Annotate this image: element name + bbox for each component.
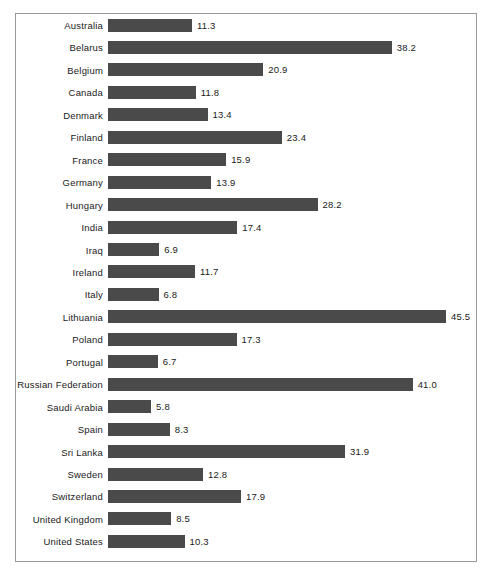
chart-frame: Australia11.3Belarus38.2Belgium20.9Canad… [15, 13, 477, 562]
bar-track: 31.9 [108, 445, 476, 458]
bar-row: Sweden12.8 [16, 464, 476, 486]
bar-row: Germany13.9 [16, 172, 476, 194]
bar-track: 5.8 [108, 400, 476, 413]
bar-value-label: 45.5 [451, 311, 470, 322]
bar-row: United States10.3 [16, 531, 476, 553]
bar-row: Italy6.8 [16, 284, 476, 306]
bar-row: Russian Federation41.0 [16, 374, 476, 396]
bar-row: United Kingdom8.5 [16, 508, 476, 530]
bar-row: France15.9 [16, 149, 476, 171]
category-label: Belarus [16, 42, 103, 53]
bar-row: Poland17.3 [16, 329, 476, 351]
bar [108, 468, 203, 481]
bar-value-label: 17.4 [242, 222, 261, 233]
bar-row: Iraq6.9 [16, 239, 476, 261]
bar-track: 12.8 [108, 468, 476, 481]
bar-value-label: 38.2 [397, 42, 416, 53]
bar-value-label: 6.7 [163, 356, 177, 367]
bar-value-label: 23.4 [287, 132, 306, 143]
bar [108, 535, 185, 548]
bar-row: Canada11.8 [16, 82, 476, 104]
bar-value-label: 6.9 [164, 244, 178, 255]
plot-area: Australia11.3Belarus38.2Belgium20.9Canad… [16, 14, 476, 561]
bar-row: Portugal6.7 [16, 351, 476, 373]
bar-track: 17.9 [108, 490, 476, 503]
bar-track: 17.4 [108, 221, 476, 234]
bar [108, 512, 171, 525]
bar-track: 6.7 [108, 355, 476, 368]
bar-track: 11.3 [108, 19, 476, 32]
bar-value-label: 10.3 [190, 536, 209, 547]
bar [108, 265, 195, 278]
bar [108, 400, 151, 413]
bar-track: 8.5 [108, 512, 476, 525]
bar [108, 198, 318, 211]
bar [108, 63, 263, 76]
bar [108, 310, 446, 323]
bar [108, 221, 237, 234]
bar-value-label: 11.3 [197, 20, 216, 31]
bar-value-label: 6.8 [164, 289, 178, 300]
bar [108, 153, 226, 166]
bar-value-label: 20.9 [268, 64, 287, 75]
category-label: Ireland [16, 267, 103, 278]
bar-row: Saudi Arabia5.8 [16, 396, 476, 418]
bar-row: Belarus38.2 [16, 37, 476, 59]
bar-track: 20.9 [108, 63, 476, 76]
bar-track: 13.4 [108, 108, 476, 121]
bar [108, 108, 208, 121]
bar [108, 490, 241, 503]
category-label: Finland [16, 132, 103, 143]
bar-value-label: 31.9 [350, 446, 369, 457]
bar-value-label: 8.5 [176, 513, 190, 524]
bar-row: Ireland11.7 [16, 261, 476, 283]
bar-value-label: 11.8 [201, 87, 220, 98]
category-label: Germany [16, 177, 103, 188]
bar-track: 38.2 [108, 41, 476, 54]
bar-value-label: 17.9 [246, 491, 265, 502]
category-label: United Kingdom [16, 514, 103, 525]
bar-value-label: 8.3 [175, 424, 189, 435]
category-label: Belgium [16, 65, 103, 76]
category-label: Switzerland [16, 491, 103, 502]
bar-value-label: 28.2 [323, 199, 342, 210]
category-label: Sri Lanka [16, 447, 103, 458]
bar [108, 19, 192, 32]
bar [108, 86, 196, 99]
bar-row: Sri Lanka31.9 [16, 441, 476, 463]
bar-track: 6.8 [108, 288, 476, 301]
bar-track: 10.3 [108, 535, 476, 548]
bar-row: Australia11.3 [16, 15, 476, 37]
bar-row: India17.4 [16, 217, 476, 239]
category-label: Denmark [16, 110, 103, 121]
bar-value-label: 13.4 [213, 109, 232, 120]
bar-value-label: 12.8 [208, 469, 227, 480]
bar-track: 13.9 [108, 176, 476, 189]
category-label: France [16, 155, 103, 166]
bar-row: Finland23.4 [16, 127, 476, 149]
bar [108, 423, 170, 436]
bar-track: 23.4 [108, 131, 476, 144]
bar-row: Belgium20.9 [16, 59, 476, 81]
category-label: India [16, 222, 103, 233]
category-label: Spain [16, 424, 103, 435]
bar-track: 11.8 [108, 86, 476, 99]
bar [108, 333, 237, 346]
category-label: Russian Federation [16, 379, 103, 390]
bar-value-label: 17.3 [242, 334, 261, 345]
category-label: Sweden [16, 469, 103, 480]
category-label: Poland [16, 334, 103, 345]
category-label: Iraq [16, 245, 103, 256]
bar-value-label: 5.8 [156, 401, 170, 412]
bar-track: 17.3 [108, 333, 476, 346]
bar-value-label: 13.9 [216, 177, 235, 188]
bar [108, 288, 159, 301]
bar-track: 45.5 [108, 310, 476, 323]
bar-track: 15.9 [108, 153, 476, 166]
bar-value-label: 41.0 [418, 379, 437, 390]
category-label: Italy [16, 289, 103, 300]
category-label: Australia [16, 20, 103, 31]
category-label: Lithuania [16, 312, 103, 323]
bar-track: 11.7 [108, 265, 476, 278]
category-label: Portugal [16, 357, 103, 368]
